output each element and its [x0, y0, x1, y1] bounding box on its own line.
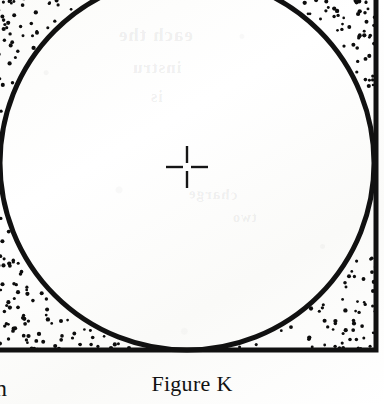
scanned-figure-page: each the instru is charge two n Figure K — [0, 0, 384, 404]
figure-drawing — [0, 0, 384, 404]
figure-caption: Figure K — [0, 371, 384, 397]
center-crosshair-mark — [166, 146, 208, 188]
stipple-dots — [0, 0, 382, 356]
